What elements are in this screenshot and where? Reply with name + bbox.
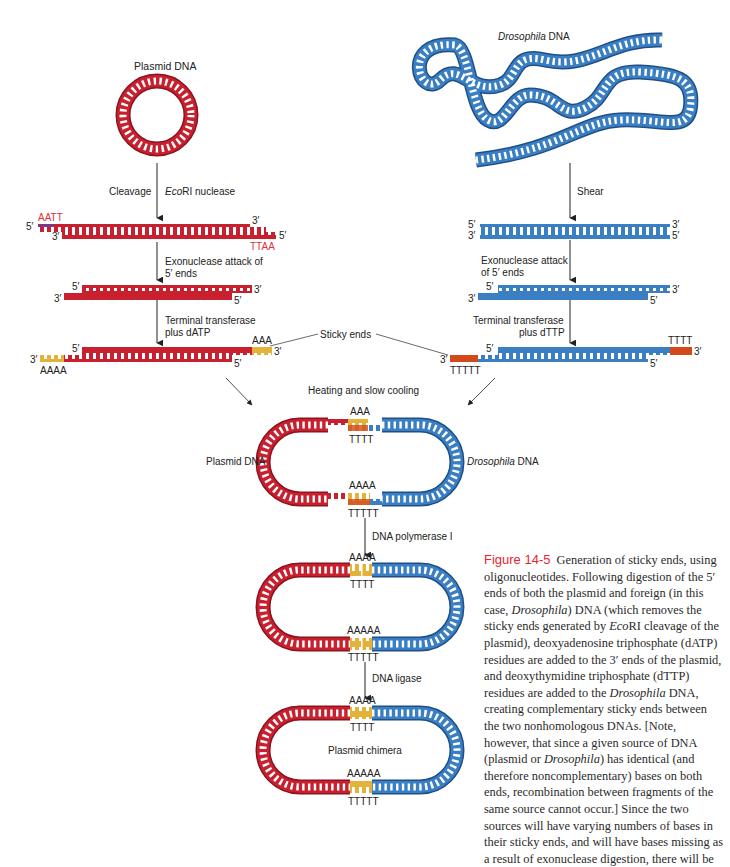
five-prime-label: 5′ xyxy=(650,294,657,307)
three-prime-label: 3′ xyxy=(52,230,59,243)
caption-text: ) has identical (and therefore noncomple… xyxy=(484,752,723,866)
plasmid-exonuclease-fragment xyxy=(64,285,252,300)
drosophila-sheared-fragment xyxy=(480,224,670,239)
chimera-bot-t-label: TTTTT xyxy=(348,795,379,808)
polymerase-label: DNA polymerase I xyxy=(372,530,453,543)
transferase-right-line2: plus dTTP xyxy=(519,326,565,339)
chimera-label: Plasmid chimera xyxy=(328,744,402,757)
chimera-top-a-label: AAAA xyxy=(349,694,376,707)
filled-bot-a-label: AAAAA xyxy=(347,624,380,637)
a-tail-left-label: AAAA xyxy=(40,364,67,377)
five-prime-label: 5′ xyxy=(26,220,33,233)
five-prime-label: 5′ xyxy=(486,280,493,293)
drosophila-italic: Drosophila xyxy=(498,31,546,42)
three-prime-label: 3′ xyxy=(30,353,37,366)
filled-bot-t-label: TTTTT xyxy=(348,651,379,664)
aatt-overhang-label: AATT xyxy=(38,211,63,224)
annealed-drosophila-label: Drosophila DNA xyxy=(467,455,539,468)
five-prime-label: 5′ xyxy=(72,280,79,293)
cleavage-label: Cleavage xyxy=(109,185,151,198)
three-prime-label: 3′ xyxy=(252,214,259,227)
five-prime-label: 5′ xyxy=(72,342,79,355)
exonuclease-left-line2: 5′ ends xyxy=(165,267,197,280)
caption-italic: Eco xyxy=(609,619,628,633)
plasmid-cleaved-fragment xyxy=(38,224,276,239)
three-prime-label: 3′ xyxy=(274,345,281,358)
drosophila-italic: Drosophila xyxy=(467,456,515,467)
plasmid-circle xyxy=(123,81,191,149)
filled-top-t-label: TTTT xyxy=(350,578,374,591)
drosophila-exonuclease-fragment xyxy=(478,285,670,300)
filled-top-a-label: AAAA xyxy=(349,551,376,564)
annealed-bot-t-label: TTTTT xyxy=(348,507,379,520)
a-tail-right-label: AAA xyxy=(252,334,272,347)
drosophila-dna-suffix: DNA xyxy=(518,456,539,467)
figure-number: Figure 14-5 xyxy=(484,552,550,567)
arrow-converge-left xyxy=(226,378,252,405)
drosophila-dna-title: Drosophila DNA xyxy=(498,30,570,43)
annealed-molecule xyxy=(263,419,457,505)
three-prime-label: 3′ xyxy=(694,345,701,358)
ttaa-overhang-label: TTAA xyxy=(250,240,275,253)
shear-label: Shear xyxy=(577,185,604,198)
drosophila-dna-suffix: DNA xyxy=(549,31,570,42)
chimera-top-t-label: TTTT xyxy=(350,721,374,734)
three-prime-label: 3′ xyxy=(54,292,61,305)
caption-italic: Drosophila xyxy=(610,686,666,700)
annealed-top-a-label: AAA xyxy=(350,405,370,418)
caption-italic: Drosophila xyxy=(512,603,568,617)
filled-molecule xyxy=(263,563,457,651)
chimera-bot-a-label: AAAAA xyxy=(347,767,380,780)
arrow-converge-right xyxy=(468,378,495,405)
three-prime-label: 3′ xyxy=(468,229,475,242)
annealed-top-t-label: TTTT xyxy=(349,433,373,446)
figure-caption: Figure 14-5 Generation of sticky ends, u… xyxy=(484,552,724,867)
five-prime-label: 5′ xyxy=(234,357,241,370)
heating-cooling-label: Heating and slow cooling xyxy=(308,384,419,397)
drosophila-genomic-dna xyxy=(419,40,691,160)
three-prime-label: 3′ xyxy=(440,353,447,366)
five-prime-label: 5′ xyxy=(279,229,286,242)
five-prime-label: 5′ xyxy=(234,294,241,307)
three-prime-label: 3′ xyxy=(468,292,475,305)
five-prime-label: 5′ xyxy=(650,357,657,370)
t-tail-right-label: TTTT xyxy=(668,334,692,347)
three-prime-label: 3′ xyxy=(672,283,679,296)
sticky-ends-label: Sticky ends xyxy=(320,328,371,341)
annealed-bot-a-label: AAAA xyxy=(349,479,376,492)
t-tail-left-label: TTTTT xyxy=(450,364,481,377)
plasmid-dna-title: Plasmid DNA xyxy=(134,60,196,73)
ecori-suffix: RI nuclease xyxy=(182,186,235,197)
ligase-label: DNA ligase xyxy=(372,672,421,685)
three-prime-label: 3′ xyxy=(254,283,261,296)
five-prime-label: 5′ xyxy=(672,229,679,242)
sticky-ends-pointer-right xyxy=(376,334,448,355)
exonuclease-right-line2: of 5′ ends xyxy=(481,266,524,279)
transferase-left-line2: plus dATP xyxy=(165,326,210,339)
caption-italic: Drosophila xyxy=(544,752,600,766)
ecori-italic: Eco xyxy=(165,186,182,197)
ecori-nuclease-label: EcoRI nuclease xyxy=(165,185,235,198)
annealed-plasmid-label: Plasmid DNA xyxy=(206,455,265,468)
five-prime-label: 5′ xyxy=(486,342,493,355)
